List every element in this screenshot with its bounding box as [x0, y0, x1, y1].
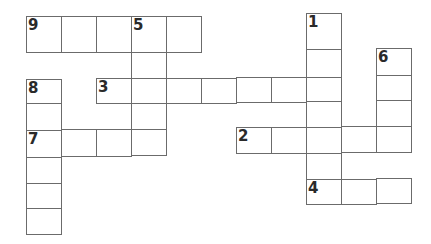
crossword-cell[interactable]: [306, 153, 342, 181]
crossword-cell[interactable]: [166, 16, 202, 53]
crossword-cell[interactable]: 2: [236, 127, 272, 154]
crossword-cell-input[interactable]: [27, 131, 61, 157]
crossword-cell-input[interactable]: [272, 128, 306, 153]
crossword-cell-input[interactable]: [307, 154, 341, 180]
crossword-cell-input[interactable]: [132, 104, 166, 129]
crossword-cell[interactable]: [201, 78, 237, 104]
crossword-cell-input[interactable]: [27, 184, 61, 208]
crossword-cell[interactable]: [26, 208, 62, 235]
crossword-cell[interactable]: [26, 157, 62, 184]
crossword-cell-input[interactable]: [132, 130, 166, 155]
crossword-cell-input[interactable]: [97, 130, 131, 156]
crossword-cell[interactable]: 3: [96, 78, 132, 104]
crossword-grid: 958371624: [0, 0, 431, 244]
crossword-cell-input[interactable]: [132, 17, 166, 52]
crossword-cell-input[interactable]: [167, 17, 201, 52]
crossword-cell[interactable]: [306, 76, 342, 102]
crossword-cell-input[interactable]: [27, 158, 61, 183]
crossword-cell-input[interactable]: [307, 77, 341, 101]
crossword-cell-input[interactable]: [307, 14, 341, 50]
crossword-cell[interactable]: [376, 75, 412, 102]
crossword-cell[interactable]: 5: [131, 16, 167, 53]
crossword-cell[interactable]: [26, 183, 62, 209]
crossword-cell-input[interactable]: [27, 80, 61, 103]
crossword-cell-input[interactable]: [377, 101, 411, 127]
crossword-cell-input[interactable]: [97, 79, 131, 103]
crossword-cell-input[interactable]: [237, 128, 271, 153]
crossword-cell-input[interactable]: [307, 180, 341, 204]
crossword-cell[interactable]: [131, 78, 167, 104]
crossword-cell[interactable]: [26, 103, 62, 131]
crossword-cell[interactable]: [96, 129, 132, 157]
crossword-cell-input[interactable]: [202, 79, 236, 103]
crossword-cell-input[interactable]: [377, 127, 411, 152]
crossword-cell-input[interactable]: [27, 209, 61, 234]
crossword-cell-input[interactable]: [27, 104, 61, 130]
crossword-cell-input[interactable]: [97, 17, 131, 52]
crossword-cell-input[interactable]: [27, 17, 61, 52]
crossword-cell[interactable]: [131, 129, 167, 156]
crossword-cell-input[interactable]: [167, 79, 201, 103]
crossword-cell[interactable]: 9: [26, 16, 62, 53]
crossword-cell-input[interactable]: [307, 128, 341, 153]
crossword-cell[interactable]: [376, 100, 412, 128]
crossword-cell[interactable]: [376, 178, 412, 204]
crossword-cell-input[interactable]: [62, 130, 96, 156]
crossword-cell[interactable]: [131, 103, 167, 130]
crossword-cell[interactable]: [306, 49, 342, 78]
crossword-cell-input[interactable]: [377, 76, 411, 101]
crossword-cell-input[interactable]: [237, 78, 271, 102]
crossword-cell-input[interactable]: [377, 179, 411, 203]
crossword-cell-input[interactable]: [342, 127, 376, 152]
crossword-cell[interactable]: [341, 179, 377, 205]
crossword-cell[interactable]: 1: [306, 13, 342, 51]
crossword-cell[interactable]: 6: [376, 48, 412, 77]
crossword-cell[interactable]: 4: [306, 179, 342, 205]
crossword-cell-input[interactable]: [132, 79, 166, 103]
crossword-cell[interactable]: [376, 126, 412, 153]
crossword-cell[interactable]: [306, 101, 342, 129]
crossword-cell[interactable]: [306, 127, 342, 154]
crossword-cell[interactable]: 7: [26, 130, 62, 158]
crossword-cell[interactable]: 8: [26, 79, 62, 104]
crossword-cell-input[interactable]: [377, 49, 411, 76]
crossword-cell[interactable]: [131, 52, 167, 79]
crossword-cell[interactable]: [271, 77, 307, 103]
crossword-cell-input[interactable]: [132, 53, 166, 78]
crossword-cell[interactable]: [236, 77, 272, 103]
crossword-cell[interactable]: [61, 16, 97, 53]
crossword-cell[interactable]: [271, 127, 307, 154]
crossword-cell[interactable]: [61, 129, 97, 157]
crossword-cell[interactable]: [341, 126, 377, 153]
crossword-cell[interactable]: [96, 16, 132, 53]
crossword-cell-input[interactable]: [342, 180, 376, 204]
crossword-cell-input[interactable]: [272, 78, 306, 102]
crossword-cell[interactable]: [166, 78, 202, 104]
crossword-cell-input[interactable]: [307, 50, 341, 77]
crossword-cell-input[interactable]: [307, 102, 341, 128]
crossword-cell-input[interactable]: [62, 17, 96, 52]
